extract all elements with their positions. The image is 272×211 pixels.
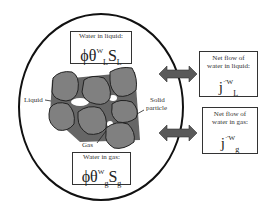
saturation-subscript: g <box>117 179 121 188</box>
water-in-liquid-box: Water in liquid: ϕθWLSL <box>70 31 132 64</box>
liquid-leader <box>45 100 51 101</box>
theta-superscript: W <box>98 168 105 176</box>
saturation-subscript: L <box>117 58 122 67</box>
liquid-flow-arrow <box>159 66 197 82</box>
flux-superscript: ·'W <box>225 134 235 142</box>
flux-superscript: ·'W <box>223 78 233 86</box>
solid-leader <box>137 110 144 114</box>
water-in-liquid-formula: ϕθWLSL <box>71 43 131 71</box>
water-in-gas-formula: ϕθWgSg <box>73 164 130 192</box>
saturation-symbol: S <box>108 168 117 185</box>
net-flow-liquid-caption-2: water in liquid: <box>200 62 257 70</box>
net-flow-gas-caption-2: water in gas: <box>203 118 257 126</box>
phi-symbol: ϕ <box>82 168 90 185</box>
net-flow-liquid-caption-1: Net flow of <box>200 54 257 62</box>
net-flow-liquid-box: Net flow of water in liquid: j·'WL <box>199 51 258 97</box>
theta-symbol: θ <box>90 168 98 185</box>
phi-symbol: ϕ <box>80 47 88 64</box>
theta-superscript: W <box>96 47 103 55</box>
net-flow-gas-caption-1: Net flow of <box>203 110 257 118</box>
solid-particle-label-2: particle <box>146 104 167 112</box>
diagram-canvas <box>0 0 272 211</box>
liquid-label: Liquid <box>24 96 43 104</box>
flux-subscript: g <box>235 145 239 154</box>
saturation-symbol: S <box>108 47 117 64</box>
net-flow-gas-formula: j·'Wg <box>203 131 257 157</box>
flux-subscript: L <box>233 89 238 98</box>
water-in-gas-caption: Water in gas: <box>73 153 130 161</box>
water-in-liquid-caption: Water in liquid: <box>71 32 131 40</box>
net-flow-liquid-formula: j·'WL <box>200 75 257 101</box>
net-flow-gas-box: Net flow of water in gas: j·'Wg <box>202 107 258 154</box>
water-in-gas-box: Water in gas: ϕθWgSg <box>72 152 131 185</box>
gas-label: Gas <box>82 141 93 149</box>
solid-particle-label-1: Solid <box>150 96 165 104</box>
